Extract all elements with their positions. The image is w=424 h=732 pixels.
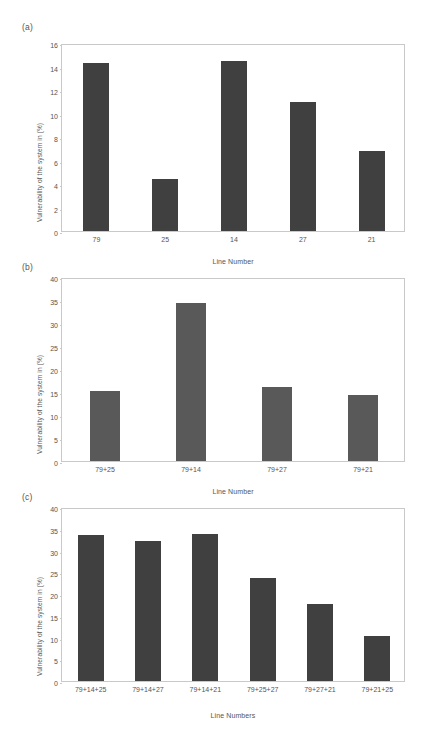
bar: [176, 303, 206, 461]
y-tick-label: 10: [50, 414, 58, 421]
bar-slot: 79+14+25: [62, 509, 119, 681]
y-tick-label: 5: [54, 658, 58, 665]
bar-slot: 27: [268, 45, 337, 231]
y-tick-label: 30: [50, 549, 58, 556]
y-tick-mark: [60, 116, 63, 117]
bar: [78, 535, 104, 681]
x-tick-label: 79+21+25: [362, 686, 394, 693]
bar-slot: 21: [337, 45, 406, 231]
y-tick-mark: [60, 186, 63, 187]
x-tick-label: 79+14+21: [190, 686, 222, 693]
bar-slot: 79+14+21: [177, 509, 234, 681]
y-tick-mark: [60, 139, 63, 140]
y-tick-label: 15: [50, 391, 58, 398]
y-tick-mark: [60, 163, 63, 164]
x-tick-label: 14: [230, 236, 238, 243]
figure-panel-a: (a) Vulnerability of the system in (%) 7…: [0, 22, 424, 270]
y-axis-label-b: Vulnerability of the system in (%): [36, 355, 43, 454]
figure-panel-b: (b) Vulnerability of the system in (%) 7…: [0, 262, 424, 500]
x-tick-label: 79+14: [181, 466, 201, 473]
x-tick-label: 25: [161, 236, 169, 243]
x-tick-label: 79+21: [353, 466, 373, 473]
y-tick-label: 14: [50, 65, 58, 72]
y-tick-mark: [60, 618, 63, 619]
y-tick-label: 40: [50, 506, 58, 513]
bar: [364, 636, 390, 681]
y-tick-mark: [60, 348, 63, 349]
x-tick-label: 79+25+27: [247, 686, 279, 693]
bar-slot: 79+14+27: [119, 509, 176, 681]
y-tick-label: 25: [50, 571, 58, 578]
y-tick-mark: [60, 417, 63, 418]
y-tick-label: 10: [50, 636, 58, 643]
bar-chart-c: Vulnerability of the system in (%) 79+14…: [0, 492, 424, 732]
bar-slot: 79+27+21: [291, 509, 348, 681]
y-tick-mark: [60, 553, 63, 554]
bar-chart-a: Vulnerability of the system in (%) 79251…: [0, 22, 424, 270]
x-tick-label: 21: [368, 236, 376, 243]
y-tick-mark: [60, 210, 63, 211]
y-tick-label: 40: [50, 276, 58, 283]
y-tick-mark: [60, 371, 63, 372]
plot-area-c: 79+14+2579+14+2779+14+2179+25+2779+27+21…: [61, 508, 405, 682]
x-tick-label: 79+25: [95, 466, 115, 473]
bar-slot: 79+21+25: [349, 509, 406, 681]
y-tick-label: 30: [50, 322, 58, 329]
y-tick-label: 25: [50, 345, 58, 352]
y-tick-label: 12: [50, 89, 58, 96]
bar: [135, 541, 161, 682]
bar: [90, 391, 120, 461]
y-tick-mark: [60, 394, 63, 395]
bar: [307, 604, 333, 681]
y-axis-label-a: Vulnerability of the system in (%): [36, 123, 43, 222]
plot-area-b: 79+2579+1479+2779+21 0510152025303540: [61, 278, 405, 462]
y-tick-label: 2: [54, 206, 58, 213]
figure-panel-c: (c) Vulnerability of the system in (%) 7…: [0, 492, 424, 732]
bar-slot: 79+14: [148, 279, 234, 461]
bar-chart-b: Vulnerability of the system in (%) 79+25…: [0, 262, 424, 500]
y-tick-mark: [60, 661, 63, 662]
bar: [221, 61, 247, 231]
bar-series-a: 7925142721: [62, 45, 404, 231]
y-tick-label: 10: [50, 112, 58, 119]
y-tick-mark: [60, 302, 63, 303]
bar: [83, 63, 109, 231]
y-tick-mark: [60, 92, 63, 93]
y-tick-mark: [60, 233, 63, 234]
y-tick-mark: [60, 683, 63, 684]
x-tick-label: 79: [92, 236, 100, 243]
x-tick-label: 79+27: [267, 466, 287, 473]
y-tick-mark: [60, 69, 63, 70]
bar-slot: 79+25: [62, 279, 148, 461]
x-tick-label: 79+27+21: [304, 686, 336, 693]
y-tick-mark: [60, 509, 63, 510]
bar-slot: 79+21: [320, 279, 406, 461]
bar: [152, 179, 178, 231]
y-tick-mark: [60, 463, 63, 464]
y-tick-mark: [60, 640, 63, 641]
bar-slot: 79+27: [234, 279, 320, 461]
y-tick-label: 16: [50, 42, 58, 49]
y-tick-mark: [60, 440, 63, 441]
bar-slot: 79: [62, 45, 131, 231]
y-axis-label-c: Vulnerability of the system in (%): [36, 577, 43, 676]
y-tick-label: 35: [50, 299, 58, 306]
x-tick-label: 79+14+27: [132, 686, 164, 693]
y-tick-label: 5: [54, 437, 58, 444]
y-tick-label: 0: [54, 230, 58, 237]
y-tick-mark: [60, 325, 63, 326]
y-tick-mark: [60, 531, 63, 532]
bar: [262, 387, 292, 461]
bar: [250, 578, 276, 681]
y-tick-mark: [60, 574, 63, 575]
y-tick-label: 4: [54, 183, 58, 190]
bar-slot: 14: [200, 45, 269, 231]
bar: [348, 395, 378, 461]
y-tick-mark: [60, 279, 63, 280]
y-tick-label: 35: [50, 527, 58, 534]
x-axis-label-c: Line Numbers: [61, 712, 405, 719]
x-tick-label: 27: [299, 236, 307, 243]
bar: [359, 151, 385, 231]
bar-series-b: 79+2579+1479+2779+21: [62, 279, 404, 461]
bar: [290, 102, 316, 231]
